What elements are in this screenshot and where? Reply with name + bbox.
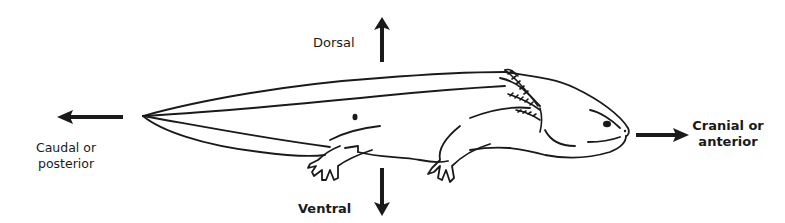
anatomical-directions-diagram: Dorsal Ventral Caudal or posterior Crani…: [0, 0, 785, 223]
axolotl-spot: [353, 114, 358, 120]
label-caudal-line1: Caudal or: [26, 140, 106, 156]
label-caudal: Caudal or posterior: [26, 140, 106, 172]
label-cranial-line1: Cranial or: [688, 118, 768, 134]
axolotl-eye: [603, 121, 611, 127]
ventral-arrow-icon: [374, 168, 390, 216]
caudal-arrow-icon: [57, 110, 123, 124]
label-cranial: Cranial or anterior: [688, 118, 768, 150]
axolotl-illustration: [0, 0, 785, 223]
dorsal-arrow-icon: [374, 17, 390, 62]
cranial-arrow-icon: [636, 128, 689, 142]
axolotl-body: [143, 72, 629, 182]
label-dorsal: Dorsal: [313, 35, 355, 51]
label-cranial-line2: anterior: [688, 134, 768, 150]
label-ventral: Ventral: [298, 201, 351, 217]
label-caudal-line2: posterior: [26, 156, 106, 172]
